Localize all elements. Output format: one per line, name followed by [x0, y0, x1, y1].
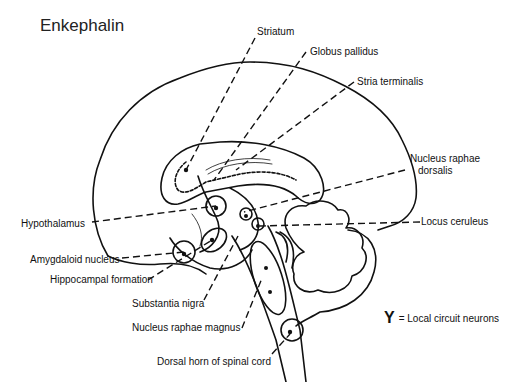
- label-hypothalamus: Hypothalamus: [21, 218, 85, 230]
- legend-text: = Local circuit neurons: [399, 313, 499, 324]
- label-dorsal-horn: Dorsal horn of spinal cord: [157, 356, 271, 368]
- label-globus-pallidus: Globus pallidus: [310, 46, 378, 58]
- label-amygdaloid-nucleus: Amygdaloid nucleus: [30, 254, 120, 266]
- local-circuit-neuron-icon: Y: [384, 310, 395, 326]
- label-stria-terminalis: Stria terminalis: [357, 76, 423, 88]
- label-substantia-nigra: Substantia nigra: [132, 298, 204, 310]
- label-nucleus-raphae-dorsalis-line1: Nucleus raphae: [410, 153, 480, 165]
- enkephalin-diagram: Enkephalin: [0, 0, 516, 382]
- cerebellum: [285, 201, 366, 292]
- legend: Y = Local circuit neurons: [384, 310, 499, 326]
- label-nucleus-raphae-dorsalis-line2: dorsalis: [418, 165, 452, 177]
- label-striatum: Striatum: [257, 26, 294, 38]
- label-locus-ceruleus: Locus ceruleus: [421, 216, 488, 228]
- cortex-outline: [93, 62, 416, 256]
- label-nucleus-raphae-magnus: Nucleus raphae magnus: [132, 322, 240, 334]
- label-hippocampal-formation: Hippocampal formation: [50, 274, 153, 286]
